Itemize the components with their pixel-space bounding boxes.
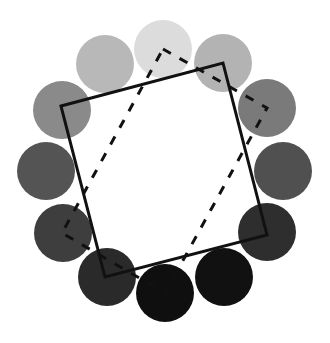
circle-ring (17, 20, 312, 322)
circle-6 (195, 248, 253, 306)
solid-square (61, 63, 267, 277)
circle-12 (76, 35, 134, 93)
circle-4 (254, 142, 312, 200)
diagram-canvas (0, 0, 330, 343)
circle-10 (17, 142, 75, 200)
color-wheel-diagram (0, 0, 330, 343)
circle-9 (34, 204, 92, 262)
